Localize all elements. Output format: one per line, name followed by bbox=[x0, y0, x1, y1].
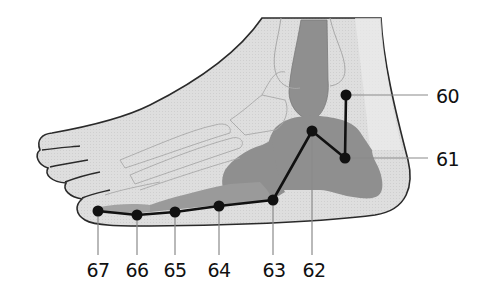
label-64: 64 bbox=[207, 261, 230, 280]
acupoint-60[interactable] bbox=[341, 90, 352, 101]
label-67: 67 bbox=[86, 261, 109, 280]
acupoint-62[interactable] bbox=[307, 126, 318, 137]
label-66: 66 bbox=[125, 261, 148, 280]
label-63: 63 bbox=[262, 261, 285, 280]
acupoint-67[interactable] bbox=[93, 206, 104, 217]
label-62: 62 bbox=[302, 261, 325, 280]
acupoint-64[interactable] bbox=[214, 201, 225, 212]
acupoint-65[interactable] bbox=[170, 207, 181, 218]
acupoint-61[interactable] bbox=[340, 153, 351, 164]
label-60: 60 bbox=[436, 87, 459, 106]
foot-diagram bbox=[0, 0, 489, 305]
acupoint-66[interactable] bbox=[132, 210, 143, 221]
acupoint-63[interactable] bbox=[268, 195, 279, 206]
label-61: 61 bbox=[436, 150, 459, 169]
label-65: 65 bbox=[163, 261, 186, 280]
